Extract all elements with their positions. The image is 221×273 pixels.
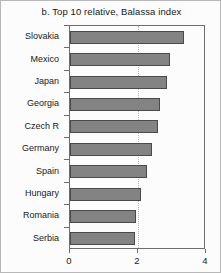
bar-row [70,165,204,178]
y-tick-mark [64,70,69,71]
x-tick-label: 0 [66,255,71,266]
x-tick-label: 2 [134,255,139,266]
bar-row [70,53,204,66]
category-label-mexico: Mexico [30,54,59,64]
x-tick-label: 4 [202,255,207,266]
bar-japan [70,76,167,89]
y-tick-mark [64,227,69,228]
x-tick-mark [69,249,70,253]
bar-row [70,120,204,133]
y-tick-mark [64,115,69,116]
bar-slovakia [70,31,184,44]
category-label-romania: Romania [23,210,59,220]
x-axis-tick-labels: 024 [69,255,205,269]
y-axis-category-labels: SlovakiaMexicoJapanGeorgiaCzech RGermany… [1,25,65,249]
y-tick-mark [64,47,69,48]
y-tick-mark [64,159,69,160]
y-tick-mark [64,137,69,138]
bar-hungary [70,188,141,201]
x-tick-mark [137,249,138,253]
category-label-serbia: Serbia [33,233,59,243]
bar-germany [70,143,152,156]
bar-mexico [70,53,170,66]
bar-serbia [70,232,135,245]
bar-row [70,210,204,223]
plot-area [69,25,205,249]
category-label-japan: Japan [34,76,59,86]
bar-row [70,188,204,201]
category-label-germany: Germany [22,143,59,153]
bar-spain [70,165,147,178]
category-label-slovakia: Slovakia [25,31,59,41]
y-tick-mark [64,92,69,93]
bar-row [70,232,204,245]
category-label-spain: Spain [36,166,59,176]
category-label-czech-r: Czech R [24,121,59,131]
bar-georgia [70,98,160,111]
y-tick-mark [64,25,69,26]
bar-row [70,76,204,89]
bar-row [70,143,204,156]
bar-row [70,31,204,44]
bar-czech-r [70,120,158,133]
chart-figure: b. Top 10 relative, Balassa index Slovak… [0,0,221,273]
page-title: b. Top 10 relative, Balassa index [1,6,221,17]
bar-series [70,26,204,248]
bar-row [70,98,204,111]
y-tick-mark [64,182,69,183]
category-label-georgia: Georgia [27,98,59,108]
bar-romania [70,210,136,223]
x-tick-mark [205,249,206,253]
category-label-hungary: Hungary [25,188,59,198]
y-tick-mark [64,204,69,205]
